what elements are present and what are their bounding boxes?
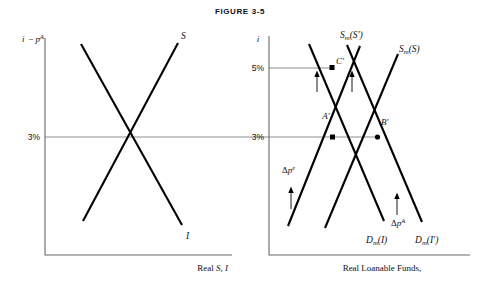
figure-canvas: FIGURE 3-5 i − pA 3% S I Real S, I [0,0,480,283]
left-panel: i − pA 3% S I Real S, I [22,31,240,273]
curve-label-I: I [185,231,190,241]
point-label-A-prime: A′ [321,111,330,121]
delta-p-e-annotation: Δpe [282,164,295,209]
delta-p-a-annotation: ΔpA [391,193,405,229]
point-label-C-prime: C′ [336,56,345,66]
curve-Dm-Iprime [347,45,422,222]
right-ytick-3pct: 3% [252,132,265,142]
right-y-axis-label: i [257,34,260,44]
point-marker-A-prime [330,135,335,140]
shift-arrow-left [314,71,319,93]
left-x-axis-label: Real S, I [197,263,229,273]
figure-container: FIGURE 3-5 i − pA 3% S I Real S, I [0,0,480,283]
delta-p-e-label: Δpe [282,164,295,175]
right-x-axis-label: Real Loanable Funds, [343,263,422,273]
curve-label-S: S [181,31,186,41]
curve-Sm-Sprime [288,46,360,226]
figure-title: FIGURE 3-5 [215,7,265,16]
curve-label-Sm-Sprime: Sm(S') [340,30,363,41]
curve-label-Dm-Iprime: Dm(I') [414,235,438,246]
curve-Dm-I [309,44,384,221]
curve-label-Sm-S: Sm(S) [399,44,420,55]
point-label-B-prime: B′ [381,117,389,127]
right-panel: i 5% 3% Sm(S') Sm(S) Dm(I) Dm(I') C′ [240,30,470,273]
delta-p-a-label: ΔpA [391,217,405,228]
right-axes [269,36,470,255]
point-marker-B-prime [375,134,380,139]
shift-arrow-right [349,71,354,93]
left-ytick-3pct: 3% [28,132,41,142]
curve-label-Dm-I: Dm(I) [365,235,387,246]
right-ytick-5pct: 5% [252,63,265,73]
point-marker-C-prime [330,65,335,70]
left-y-axis-label: i − pA [22,33,44,44]
